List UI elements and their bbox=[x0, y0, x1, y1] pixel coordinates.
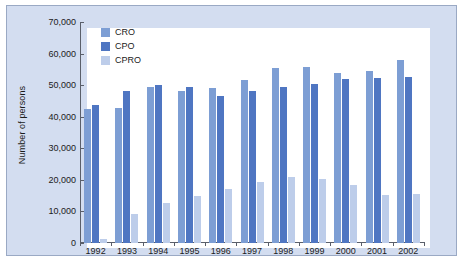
bar-cpo-2001 bbox=[374, 78, 381, 243]
x-tickmark bbox=[143, 242, 144, 246]
y-tick-label: 0 bbox=[6, 238, 76, 249]
bar-cro-2000 bbox=[334, 73, 341, 243]
legend-label-cpro: CPRO bbox=[115, 56, 141, 65]
y-tick-label: 10,000 bbox=[6, 206, 76, 217]
bar-cpo-1997 bbox=[249, 91, 256, 243]
y-tick-label: 60,000 bbox=[6, 49, 76, 60]
x-tickmark bbox=[80, 242, 81, 246]
x-tick-label: 1996 bbox=[204, 246, 238, 256]
bar-cro-2002 bbox=[397, 60, 404, 243]
x-tickmark bbox=[205, 242, 206, 246]
y-tick-label: 50,000 bbox=[6, 80, 76, 91]
legend-item-cpo: CPO bbox=[101, 40, 171, 53]
bar-group bbox=[272, 22, 295, 243]
x-tickmark bbox=[111, 242, 112, 246]
bar-group bbox=[209, 22, 232, 243]
bar-cro-1992 bbox=[84, 109, 91, 243]
bar-cro-2001 bbox=[366, 71, 373, 243]
bar-group bbox=[178, 22, 201, 243]
bar-cro-1993 bbox=[115, 108, 122, 243]
bar-cpro-1993 bbox=[131, 214, 138, 243]
x-tick-label: 1993 bbox=[110, 246, 144, 256]
x-tick-label: 1997 bbox=[235, 246, 269, 256]
x-tickmark bbox=[361, 242, 362, 246]
legend-label-cro: CRO bbox=[115, 28, 135, 37]
x-tickmark bbox=[174, 242, 175, 246]
bar-cpo-1995 bbox=[186, 87, 193, 243]
bar-cpro-1997 bbox=[257, 182, 264, 243]
x-tickmark bbox=[299, 242, 300, 246]
y-tick-label: 20,000 bbox=[6, 175, 76, 186]
legend-label-cpo: CPO bbox=[115, 42, 135, 51]
bar-cpo-1996 bbox=[217, 96, 224, 243]
bar-cpo-1999 bbox=[311, 84, 318, 243]
bar-cpo-1993 bbox=[123, 91, 130, 243]
bar-cpro-1995 bbox=[194, 196, 201, 243]
bar-group bbox=[366, 22, 389, 243]
bar-cpro-1999 bbox=[319, 179, 326, 243]
bar-cpo-2000 bbox=[342, 79, 349, 243]
bar-cpo-2002 bbox=[405, 77, 412, 243]
x-tick-label: 1995 bbox=[172, 246, 206, 256]
x-tick-label: 1994 bbox=[141, 246, 175, 256]
x-tickmark bbox=[236, 242, 237, 246]
bar-cpro-1992 bbox=[100, 239, 107, 243]
legend-swatch-cpro bbox=[101, 56, 110, 65]
bar-cro-1998 bbox=[272, 68, 279, 243]
bar-cro-1997 bbox=[241, 80, 248, 243]
x-tickmark bbox=[268, 242, 269, 246]
bar-cpro-2000 bbox=[350, 185, 357, 243]
legend-swatch-cpo bbox=[101, 42, 110, 51]
bar-cpo-1994 bbox=[155, 85, 162, 243]
bar-group bbox=[397, 22, 420, 243]
x-tick-label: 2001 bbox=[360, 246, 394, 256]
y-tick-label: 70,000 bbox=[6, 17, 76, 28]
x-tick-label: 1992 bbox=[79, 246, 113, 256]
bar-cpo-1992 bbox=[92, 105, 99, 243]
bar-cro-1999 bbox=[303, 67, 310, 243]
x-tickmark bbox=[393, 242, 394, 246]
legend-swatch-cro bbox=[101, 28, 110, 37]
bar-cro-1994 bbox=[147, 87, 154, 243]
legend-item-cpro: CPRO bbox=[101, 54, 171, 67]
bar-cpro-1996 bbox=[225, 189, 232, 243]
y-axis-ticks: 010,00020,00030,00040,00050,00060,00070,… bbox=[4, 0, 76, 261]
bar-cpro-2002 bbox=[413, 194, 420, 243]
bar-group bbox=[334, 22, 357, 243]
chart-figure: Number of persons 010,00020,00030,00040,… bbox=[0, 0, 463, 261]
bar-group bbox=[303, 22, 326, 243]
x-tick-label: 1999 bbox=[298, 246, 332, 256]
bar-group bbox=[241, 22, 264, 243]
y-tick-label: 30,000 bbox=[6, 143, 76, 154]
bar-cro-1996 bbox=[209, 88, 216, 243]
bar-cpro-2001 bbox=[382, 195, 389, 243]
x-tick-label: 1998 bbox=[266, 246, 300, 256]
x-tickmark bbox=[424, 242, 425, 246]
bar-cpro-1998 bbox=[288, 177, 295, 243]
y-tick-label: 40,000 bbox=[6, 112, 76, 123]
bar-cpo-1998 bbox=[280, 87, 287, 243]
x-tickmark bbox=[330, 242, 331, 246]
bar-cro-1995 bbox=[178, 91, 185, 243]
legend-item-cro: CRO bbox=[101, 26, 171, 39]
x-tick-label: 2002 bbox=[391, 246, 425, 256]
chart-legend: CRO CPO CPRO bbox=[101, 26, 171, 68]
bar-cpro-1994 bbox=[163, 203, 170, 243]
x-tick-label: 2000 bbox=[329, 246, 363, 256]
